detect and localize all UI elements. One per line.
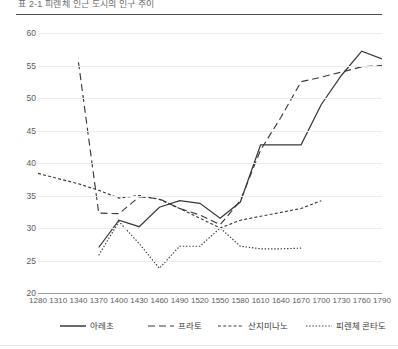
y-axis-tick-labels: 202530354045505560	[14, 33, 36, 293]
legend-swatch-dashed-icon	[148, 322, 174, 330]
figure-title: 표 2-1 피렌체 인근 도시의 인구 추이	[18, 0, 380, 13]
legend-item-3[interactable]: 산지미나노	[218, 319, 288, 333]
legend-item-1[interactable]: 아레초	[60, 319, 114, 333]
chart-figure: 표 2-1 피렌체 인근 도시의 인구 추이 20253035404550556…	[0, 0, 398, 349]
y-tick-label: 25	[14, 257, 36, 265]
gridline	[38, 163, 382, 164]
gridline	[38, 228, 382, 229]
legend-swatch-solid-icon	[60, 322, 86, 330]
y-tick-label: 40	[14, 159, 36, 167]
gridline	[38, 33, 382, 34]
gridline	[38, 261, 382, 262]
y-tick-label: 45	[14, 127, 36, 135]
series-line-2	[78, 62, 382, 225]
gridline	[38, 196, 382, 197]
series-line-1	[99, 51, 382, 247]
y-tick-label: 30	[14, 224, 36, 232]
plot-area	[38, 33, 382, 293]
legend-swatch-fine-dashed-icon	[218, 322, 244, 330]
footer-divider	[0, 345, 398, 346]
y-tick-label: 60	[14, 29, 36, 37]
gridline	[38, 131, 382, 132]
x-axis-line	[38, 293, 382, 294]
gridline	[38, 66, 382, 67]
title-divider	[16, 14, 382, 15]
legend-item-2[interactable]: 프라토	[148, 319, 202, 333]
legend-label: 아레초	[90, 321, 114, 331]
legend-swatch-dotted-icon	[306, 322, 332, 330]
y-tick-label: 50	[14, 94, 36, 102]
legend-label: 피렌체 콘타도	[336, 321, 386, 331]
chart-legend: 아레초프라토산지미나노피렌체 콘타도	[38, 319, 382, 335]
legend-label: 프라토	[178, 321, 202, 331]
legend-label: 산지미나노	[248, 321, 288, 331]
gridline	[38, 98, 382, 99]
x-tick-label: 1790	[369, 296, 395, 306]
y-tick-label: 55	[14, 62, 36, 70]
legend-item-4[interactable]: 피렌체 콘타도	[306, 319, 386, 333]
x-axis-tick-labels: 1280131013401370140014301460149015201550…	[38, 296, 382, 308]
y-tick-label: 35	[14, 192, 36, 200]
